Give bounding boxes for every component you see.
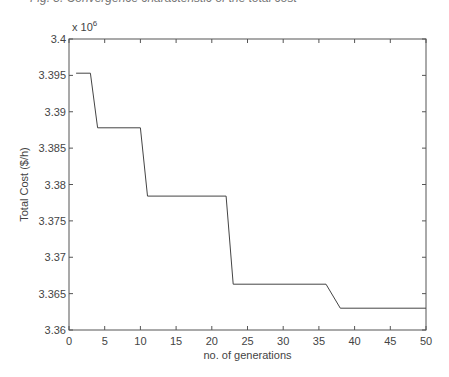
y-tick-label: 3.38: [45, 179, 66, 191]
y-multiplier-label: x 106: [72, 19, 98, 33]
x-tick-label: 35: [313, 335, 325, 347]
axes-box: [69, 39, 426, 330]
y-tick-label: 3.375: [38, 215, 66, 227]
y-tick-label: 3.39: [45, 106, 66, 118]
y-tick-label: 3.395: [38, 69, 66, 81]
x-tick-label: 45: [384, 335, 396, 347]
x-tick-label: 10: [134, 335, 146, 347]
x-tick-label: 40: [348, 335, 360, 347]
y-tick-labels: 3.363.3653.373.3753.383.3853.393.3953.4: [38, 33, 66, 336]
cost-series-line: [76, 73, 426, 308]
y-tick-label: 3.365: [38, 288, 66, 300]
x-tick-label: 50: [420, 335, 432, 347]
x-tick-label: 0: [66, 335, 72, 347]
axis-ticks: [69, 39, 426, 330]
x-tick-label: 20: [206, 335, 218, 347]
y-tick-label: 3.37: [45, 251, 66, 263]
x-tick-labels: 05101520253035404550: [66, 335, 432, 347]
x-tick-label: 30: [277, 335, 289, 347]
y-tick-label: 3.4: [51, 33, 66, 45]
x-tick-label: 5: [102, 335, 108, 347]
x-tick-label: 25: [241, 335, 253, 347]
convergence-chart: 05101520253035404550 3.363.3653.373.3753…: [0, 0, 449, 377]
y-tick-label: 3.385: [38, 142, 66, 154]
y-axis-label: Total Cost ($/h): [18, 147, 30, 222]
x-tick-label: 15: [170, 335, 182, 347]
x-axis-label: no. of generations: [203, 349, 292, 361]
y-tick-label: 3.36: [45, 324, 66, 336]
